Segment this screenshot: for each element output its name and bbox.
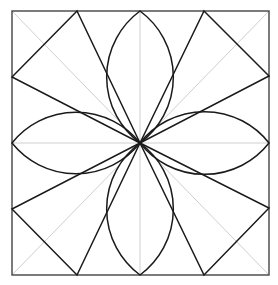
geometric-diagram bbox=[0, 0, 278, 285]
